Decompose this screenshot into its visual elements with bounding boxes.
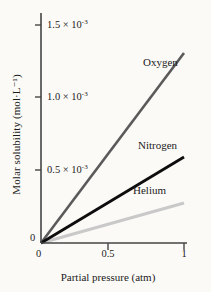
series-label-oxygen: Oxygen — [143, 57, 178, 68]
y-tick-1-5-exponent: -3 — [82, 18, 88, 26]
y-axis-origin-label: 0 — [30, 233, 35, 244]
y-tick-1-5-mantissa: 1.5 × 10 — [47, 19, 82, 30]
series-label-helium: Helium — [133, 185, 166, 196]
x-axis-origin-label: 0 — [36, 249, 41, 260]
y-tick-0-5-exponent: -3 — [82, 163, 88, 171]
x-tick-label-1: 1 — [176, 249, 192, 260]
x-tick-label-0-5: 0.5 — [98, 249, 118, 260]
y-tick-0-5-mantissa: 0.5 × 10 — [47, 164, 82, 175]
y-axis-title: Molar solubility (mol·L⁻¹) — [10, 45, 23, 225]
series-line-helium — [41, 203, 184, 243]
solubility-vs-pressure-chart: 1.5 × 10-3 1.0 × 10-3 0.5 × 10-3 0 0 0.5… — [0, 0, 211, 292]
y-tick-label-1-5: 1.5 × 10-3 — [47, 20, 88, 31]
y-tick-1-0-exponent: -3 — [82, 90, 88, 98]
series-label-nitrogen: Nitrogen — [138, 140, 177, 151]
x-axis-title: Partial pressure (atm) — [18, 271, 198, 283]
y-tick-label-0-5: 0.5 × 10-3 — [47, 165, 88, 176]
y-tick-label-1-0: 1.0 × 10-3 — [47, 92, 88, 103]
y-tick-1-0-mantissa: 1.0 × 10 — [47, 91, 82, 102]
